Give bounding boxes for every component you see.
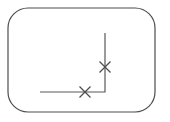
diagram-canvas <box>0 0 170 122</box>
elbow-polyline <box>40 33 105 92</box>
diagram-svg <box>0 0 170 122</box>
rounded-rectangle-border <box>8 8 155 112</box>
